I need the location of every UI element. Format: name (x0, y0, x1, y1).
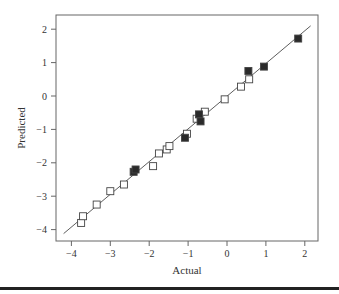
open-square-marker (107, 188, 114, 195)
filled-square-marker (132, 166, 139, 173)
y-tick-label: −3 (36, 191, 47, 202)
x-tick-label: −4 (66, 248, 77, 259)
open-square-marker (155, 150, 162, 157)
open-square-marker (238, 83, 245, 90)
y-tick-label: −2 (36, 157, 47, 168)
y-tick-label: −1 (36, 124, 47, 135)
x-tick-label: 2 (302, 248, 307, 259)
open-square-marker (246, 76, 253, 83)
y-tick-label: 0 (42, 91, 47, 102)
open-square-marker (80, 213, 87, 220)
y-tick-label: 1 (42, 57, 47, 68)
data-points (78, 35, 302, 226)
bottom-rule (0, 287, 339, 290)
filled-square-marker (181, 134, 188, 141)
x-tick-label: 1 (263, 248, 268, 259)
x-tick-label: 0 (225, 248, 230, 259)
y-tick-label: −4 (36, 224, 47, 235)
filled-square-marker (195, 111, 202, 118)
open-square-marker (120, 181, 127, 188)
open-square-marker (93, 201, 100, 208)
y-axis-title: Predicted (15, 107, 27, 149)
x-tick-label: −3 (105, 248, 116, 259)
filled-square-marker (197, 118, 204, 125)
open-square-marker (78, 219, 85, 226)
open-square-marker (221, 96, 228, 103)
fit-line (64, 26, 311, 234)
x-tick-label: −2 (144, 248, 155, 259)
x-axis: −4−3−2−1012 (66, 241, 307, 259)
filled-square-marker (245, 67, 252, 74)
filled-square-marker (260, 63, 267, 70)
scatter-chart: −4−3−2−1012 −4−3−2−1012 Actual Predicted (0, 0, 339, 294)
filled-square-marker (295, 35, 302, 42)
open-square-marker (166, 143, 173, 150)
open-square-marker (150, 163, 157, 170)
y-tick-label: 2 (42, 24, 47, 35)
x-tick-label: −1 (183, 248, 194, 259)
x-axis-title: Actual (172, 264, 201, 276)
y-axis: −4−3−2−1012 (36, 24, 56, 235)
